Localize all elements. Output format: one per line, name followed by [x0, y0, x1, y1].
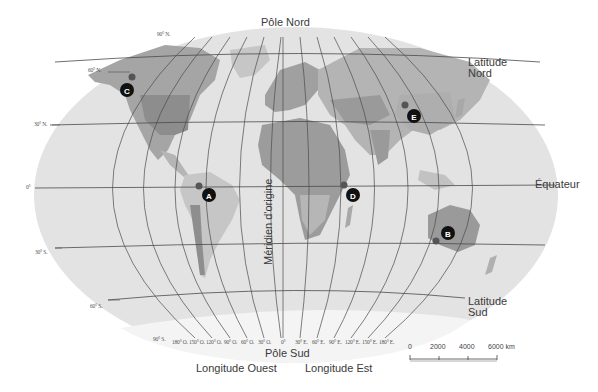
lon-tick-60w: 60° O.: [241, 339, 254, 345]
svg-text:A: A: [206, 192, 212, 201]
north-pole-label: Pôle Nord: [261, 16, 310, 28]
longitude-west-label: Longitude Ouest: [196, 362, 277, 374]
lat-tick-90s: 90° S.: [153, 336, 165, 342]
svg-text:C: C: [124, 87, 130, 96]
lon-tick-30w: 30° O.: [258, 339, 271, 345]
scale-bar: [410, 355, 497, 361]
lon-tick-150e: 150° E.: [362, 339, 377, 345]
lat-tick-30n: 30° N.: [34, 121, 47, 127]
lon-tick-120w: 120° O.: [206, 339, 222, 345]
longitude-east-label: Longitude Est: [305, 362, 372, 374]
lat-tick-30s: 30° S.: [35, 249, 47, 255]
lat-tick-0: 0°: [26, 184, 31, 190]
scale-tick-0: 0: [408, 343, 412, 350]
lon-tick-0: 0°: [281, 339, 286, 345]
lat-tick-60s: 60° S.: [90, 303, 102, 309]
south-pole-label: Pôle Sud: [265, 347, 310, 359]
lon-tick-120e: 120° E.: [345, 339, 360, 345]
svg-text:B: B: [445, 230, 451, 239]
latitude-north-line2: Nord: [468, 68, 507, 79]
equator-label: Équateur: [535, 178, 580, 190]
scale-tick-2000: 2000: [430, 343, 446, 350]
lon-tick-180w: 180° O.: [172, 339, 188, 345]
lon-tick-90e: 90° E.: [329, 339, 342, 345]
prime-meridian-label: Méridien d'origine: [262, 179, 274, 265]
latitude-north-label: Latitude Nord: [468, 57, 507, 79]
scale-tick-6000: 6000 km: [488, 343, 515, 350]
world-map: A B C D E: [0, 0, 598, 392]
lon-tick-90w: 90° O.: [224, 339, 237, 345]
lon-tick-30e: 30° E.: [295, 339, 308, 345]
lat-tick-60n: 60° N.: [88, 67, 101, 73]
latitude-south-label: Latitude Sud: [468, 296, 507, 318]
latitude-south-line2: Sud: [468, 307, 507, 318]
lat-tick-90n: 90° N.: [157, 31, 170, 37]
scale-tick-4000: 4000: [459, 343, 475, 350]
lon-tick-150w: 150° O.: [189, 339, 205, 345]
lon-tick-60e: 60° E.: [312, 339, 325, 345]
svg-text:D: D: [350, 192, 356, 201]
lon-tick-180e: 180° E.: [379, 339, 394, 345]
svg-text:E: E: [411, 113, 417, 122]
